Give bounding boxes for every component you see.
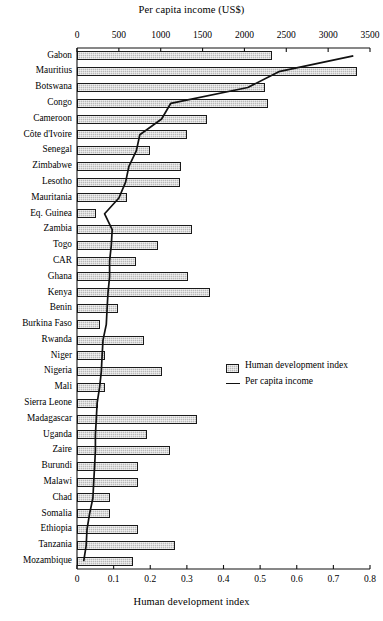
- axes-and-line: [0, 0, 383, 621]
- legend-line-pci: [226, 383, 240, 384]
- legend-swatch-hdi: [226, 364, 239, 373]
- chart-figure: Per capita income (US$) Human developmen…: [0, 0, 383, 621]
- legend-label-pci: Per capita income: [245, 376, 313, 386]
- legend-label-hdi: Human development index: [245, 360, 348, 370]
- per-capita-income-line: [84, 56, 354, 561]
